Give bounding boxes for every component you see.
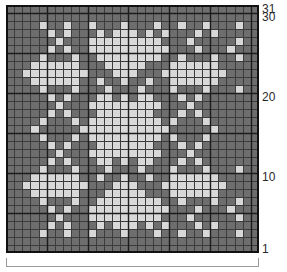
width-scale-bracket xyxy=(6,258,259,267)
colourwork-chart-grid[interactable] xyxy=(6,5,259,253)
row-number-axis: 313020101 xyxy=(262,0,287,272)
row-label-30: 30 xyxy=(262,11,275,23)
chart-page: 313020101 xyxy=(0,0,287,272)
row-label-1: 1 xyxy=(262,243,269,255)
chart-grid-canvas[interactable] xyxy=(6,5,259,253)
row-label-20: 20 xyxy=(262,91,275,103)
row-label-10: 10 xyxy=(262,171,275,183)
